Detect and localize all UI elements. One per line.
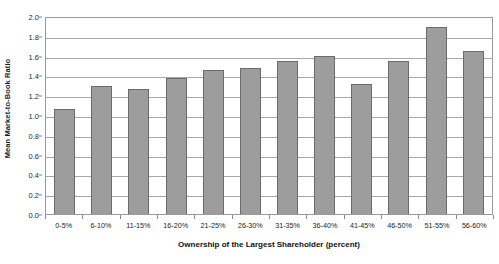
- x-tick-label: 16-20%: [158, 221, 194, 230]
- y-tick-label: 2.0: [29, 13, 39, 22]
- y-tick-label: 1.2: [29, 92, 39, 101]
- x-tick-mark: [269, 215, 270, 219]
- bar-series: [46, 18, 492, 214]
- x-axis-tick-marks: [45, 215, 493, 220]
- y-tick-label: 1.0: [29, 112, 39, 121]
- x-tick-mark: [157, 215, 158, 219]
- y-tick-label: 0.4: [29, 171, 39, 180]
- plot-area: [45, 17, 493, 215]
- bar-16-20: [166, 78, 187, 214]
- y-tick-mark: [39, 76, 42, 77]
- bar-31-35: [277, 61, 298, 214]
- x-tick-mark: [194, 215, 195, 219]
- bar-21-25: [203, 70, 224, 214]
- y-tick-label: 0.6: [29, 151, 39, 160]
- x-tick-label: 11-15%: [120, 221, 156, 230]
- x-tick-label: 56-60%: [456, 221, 492, 230]
- bar-56-60: [463, 51, 484, 214]
- y-tick-label: 0.2: [29, 191, 39, 200]
- y-axis-title: Mean Market-to-Book Ratio: [0, 0, 16, 216]
- bar-26-30: [240, 68, 261, 214]
- bar-46-50: [388, 61, 409, 214]
- y-tick-label: 0.8: [29, 131, 39, 140]
- x-tick-mark: [493, 215, 494, 219]
- bar-36-40: [314, 56, 335, 214]
- bar-6-10: [91, 86, 112, 214]
- bar-11-15: [128, 89, 149, 214]
- x-axis-tick-labels: 0-5%6-10%11-15%16-20%21-25%26-30%31-35%3…: [45, 221, 493, 235]
- y-tick-label: 1.6: [29, 52, 39, 61]
- x-tick-label: 31-35%: [270, 221, 306, 230]
- x-tick-label: 6-10%: [83, 221, 119, 230]
- y-axis-tick-labels: 0.00.20.40.60.81.01.21.41.61.82.0: [16, 0, 42, 230]
- x-tick-mark: [232, 215, 233, 219]
- x-tick-label: 36-40%: [307, 221, 343, 230]
- x-tick-label: 21-25%: [195, 221, 231, 230]
- y-tick-mark: [39, 195, 42, 196]
- y-tick-mark: [39, 56, 42, 57]
- y-tick-mark: [39, 155, 42, 156]
- x-tick-label: 26-30%: [232, 221, 268, 230]
- y-tick-mark: [39, 96, 42, 97]
- bar-0-5: [54, 109, 75, 214]
- bar-41-45: [351, 84, 372, 214]
- x-tick-mark: [381, 215, 382, 219]
- bar-chart: Mean Market-to-Book Ratio 0.00.20.40.60.…: [0, 0, 499, 264]
- x-tick-mark: [82, 215, 83, 219]
- y-tick-label: 0.0: [29, 211, 39, 220]
- x-tick-label: 51-55%: [419, 221, 455, 230]
- x-tick-mark: [45, 215, 46, 219]
- y-tick-label: 1.4: [29, 72, 39, 81]
- x-tick-label: 0-5%: [46, 221, 82, 230]
- y-tick-mark: [39, 135, 42, 136]
- y-axis-title-label: Mean Market-to-Book Ratio: [4, 58, 13, 158]
- y-tick-mark: [39, 36, 42, 37]
- y-tick-mark: [39, 175, 42, 176]
- x-axis-title: Ownership of the Largest Shareholder (pe…: [45, 240, 493, 249]
- x-tick-mark: [306, 215, 307, 219]
- y-tick-mark: [39, 215, 42, 216]
- y-tick-mark: [39, 116, 42, 117]
- bar-51-55: [426, 27, 447, 214]
- x-tick-mark: [418, 215, 419, 219]
- x-tick-mark: [344, 215, 345, 219]
- x-tick-label: 41-45%: [344, 221, 380, 230]
- x-tick-mark: [120, 215, 121, 219]
- x-tick-mark: [456, 215, 457, 219]
- y-tick-label: 1.8: [29, 32, 39, 41]
- y-tick-mark: [39, 17, 42, 18]
- x-tick-label: 46-50%: [382, 221, 418, 230]
